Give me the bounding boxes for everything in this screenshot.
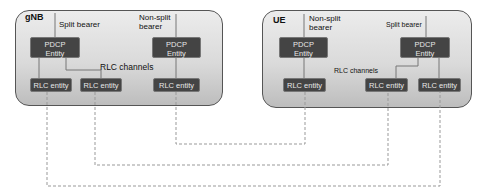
- gnb-pdcp-entity-split: PDCP Entity: [30, 37, 80, 58]
- ue-non-split-bearer-label: Non-split bearer: [309, 14, 349, 32]
- gnb-rlc-entity-2: RLC entity: [80, 78, 122, 92]
- ue-pdcp-entity-non-split: PDCP Entity: [279, 37, 328, 58]
- pdcp-line1: PDCP: [153, 40, 200, 49]
- pdcp-line2: Entity: [401, 49, 449, 58]
- gnb-rlc-entity-3: RLC entity: [153, 78, 200, 92]
- ue-pdcp-entity-split: PDCP Entity: [400, 37, 450, 58]
- gnb-split-bearer-label: Split bearer: [59, 20, 100, 29]
- ue-rlc-channels-label: RLC channels: [334, 66, 378, 75]
- ue-rlc-entity-2: RLC entity: [365, 78, 408, 92]
- gnb-non-split-bearer-label: Non-split bearer: [139, 13, 177, 31]
- pdcp-line1: PDCP: [401, 40, 449, 49]
- ue-rlc-entity-1: RLC entity: [283, 78, 326, 92]
- pdcp-line2: Entity: [153, 49, 200, 58]
- pdcp-line2: Entity: [280, 49, 327, 58]
- pdcp-line2: Entity: [31, 49, 79, 58]
- connector-lines: [0, 0, 487, 195]
- pdcp-line1: PDCP: [280, 40, 327, 49]
- ue-rlc-entity-3: RLC entity: [418, 78, 461, 92]
- gnb-rlc-entity-1: RLC entity: [30, 78, 72, 92]
- gnb-rlc-channels-label: RLC channels: [100, 63, 153, 72]
- ue-split-bearer-label: Split bearer: [386, 20, 422, 29]
- gnb-pdcp-entity-non-split: PDCP Entity: [152, 37, 201, 58]
- pdcp-line1: PDCP: [31, 40, 79, 49]
